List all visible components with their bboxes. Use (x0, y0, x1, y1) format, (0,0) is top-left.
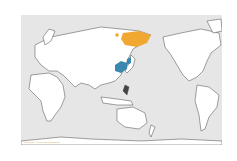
map-credit: Range map © Cornell Lab of Ornithology (24, 141, 60, 143)
land-africa (29, 73, 65, 121)
land-indonesia (101, 97, 133, 105)
world-map (21, 15, 222, 145)
land-australia (117, 107, 147, 129)
breeding-range-spot (115, 33, 119, 37)
range-map: Range map © Cornell Lab of Ornithology (21, 15, 222, 145)
land-north-america (163, 29, 221, 81)
land-philippines (123, 85, 129, 95)
land-south-america (195, 85, 219, 131)
land-new-zealand (149, 125, 155, 137)
